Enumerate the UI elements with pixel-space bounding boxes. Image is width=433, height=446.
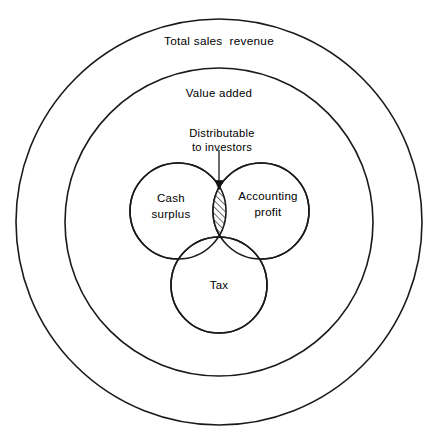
venn-diagram-svg: Total sales revenue Value added Distribu… [0,0,433,446]
label-cash-surplus-line1: Cash [157,192,185,204]
label-annotation-line1: Distributable [189,127,254,139]
label-accounting-profit-line1: Accounting [238,190,297,202]
label-tax: Tax [210,279,229,291]
label-total-sales-revenue: Total sales revenue [164,34,274,48]
venn-diagram-container: Total sales revenue Value added Distribu… [0,0,433,446]
label-cash-surplus-line2: surplus [152,208,191,220]
label-annotation-line2: to investors [192,141,252,153]
label-accounting-profit-line2: profit [254,206,282,218]
label-value-added: Value added [186,87,252,99]
